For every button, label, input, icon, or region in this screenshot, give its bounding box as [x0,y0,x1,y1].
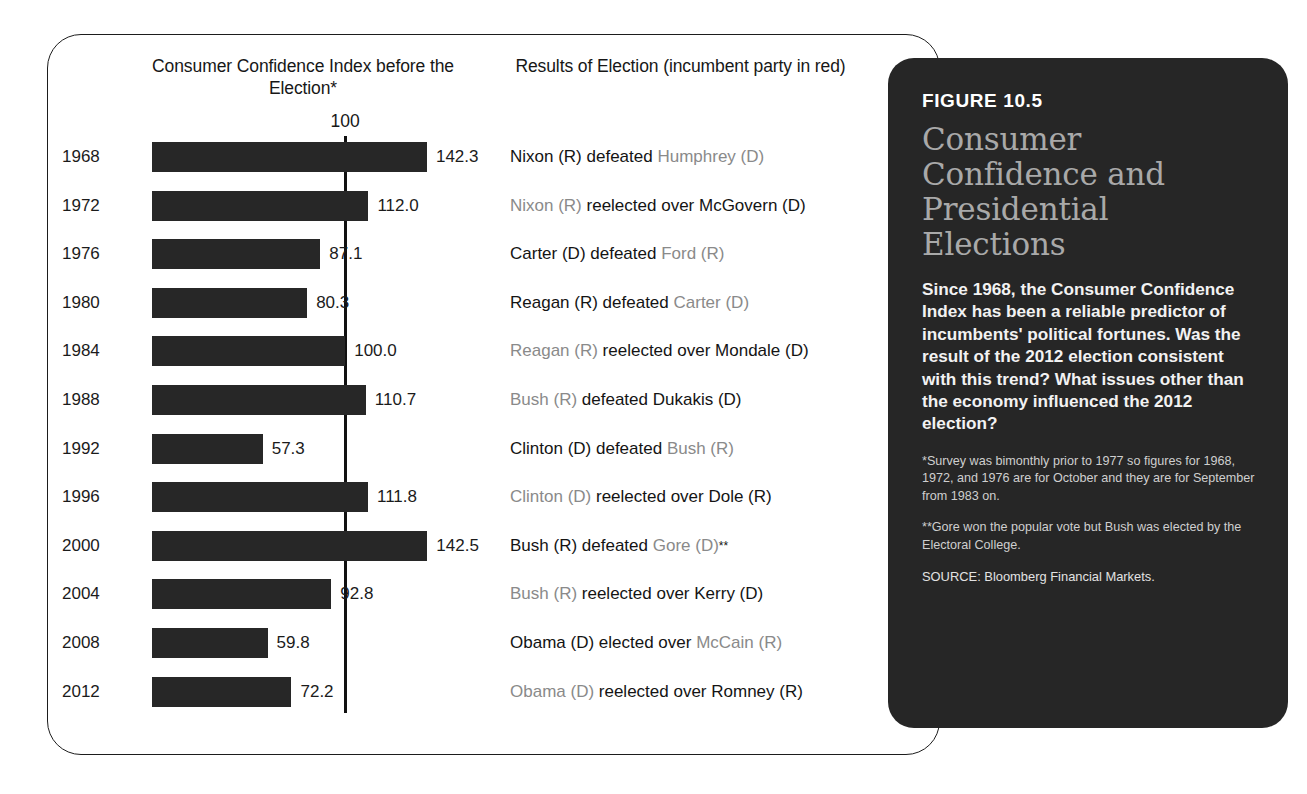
election-result-row: Nixon (R) reelected over McGovern (D) [510,183,940,229]
election-result-row: Reagan (R) defeated Carter (D) [510,280,940,326]
bar-value-label: 100.0 [354,341,397,361]
election-verb: reelected over [582,196,699,216]
election-loser: Kerry (D) [694,584,763,604]
bar [152,677,291,707]
election-winner: Bush (R) [510,536,577,556]
chart-row: 1968142.3 [48,134,508,180]
chart-row: 1984100.0 [48,328,508,374]
election-loser: Mondale (D) [715,341,809,361]
bar-value-label: 80.3 [316,293,349,313]
chart-row: 1988110.7 [48,377,508,423]
year-label: 2012 [62,682,144,702]
election-loser: Gore (D) [653,536,719,556]
bar-value-label: 110.7 [375,390,416,410]
chart-row: 198080.3 [48,280,508,326]
election-loser: McCain (R) [696,633,782,653]
chart-row: 1972112.0 [48,183,508,229]
footnote-marker: ** [719,539,728,553]
year-label: 1972 [62,196,144,216]
election-winner: Obama (D) [510,682,594,702]
election-result-row: Nixon (R) defeated Humphrey (D) [510,134,940,180]
bar-chart: 1968142.31972112.0197687.1198080.3198410… [48,35,508,754]
figure-note-1: *Survey was bimonthly prior to 1977 so f… [922,453,1258,507]
election-loser: Dole (R) [708,487,771,507]
election-winner: Carter (D) [510,244,586,264]
election-result-row: Bush (R) reelected over Kerry (D) [510,571,940,617]
election-verb: defeated [577,390,653,410]
year-label: 2000 [62,536,144,556]
election-winner: Bush (R) [510,584,577,604]
year-label: 1988 [62,390,144,410]
election-verb: reelected over [594,682,711,702]
election-winner: Clinton (D) [510,439,591,459]
election-winner: Bush (R) [510,390,577,410]
election-result-row: Bush (R) defeated Dukakis (D) [510,377,940,423]
chart-row: 200492.8 [48,571,508,617]
election-verb: reelected over [577,584,694,604]
election-loser: Carter (D) [674,293,750,313]
bar [152,579,331,609]
bar-value-label: 112.0 [377,196,418,216]
figure-title: Consumer Confidence and Presidential Ele… [922,122,1258,262]
bar [152,628,268,658]
election-verb: defeated [582,147,658,167]
election-result-row: Bush (R) defeated Gore (D)** [510,523,940,569]
bar-value-label: 59.8 [277,633,310,653]
election-result-row: Clinton (D) defeated Bush (R) [510,426,940,472]
year-label: 1980 [62,293,144,313]
chart-row: 199257.3 [48,426,508,472]
year-label: 1984 [62,341,144,361]
bar [152,191,368,221]
election-result-row: Reagan (R) reelected over Mondale (D) [510,328,940,374]
election-verb: defeated [577,536,653,556]
bar [152,288,307,318]
bar-value-label: 72.2 [300,682,333,702]
figure-note-2: **Gore won the popular vote but Bush was… [922,519,1258,555]
election-verb: defeated [586,244,662,264]
figure-panel: Consumer Confidence Index before the Ele… [47,34,940,755]
bar [152,336,345,366]
election-loser: Bush (R) [667,439,734,459]
year-label: 1996 [62,487,144,507]
year-label: 1976 [62,244,144,264]
election-verb: reelected over [591,487,708,507]
election-winner: Reagan (R) [510,293,598,313]
figure-number: FIGURE 10.5 [922,90,1258,112]
election-result-row: Obama (D) elected over McCain (R) [510,620,940,666]
election-winner: Nixon (R) [510,147,582,167]
election-winner: Nixon (R) [510,196,582,216]
election-result-row: Clinton (D) reelected over Dole (R) [510,474,940,520]
figure-caption-panel: FIGURE 10.5 Consumer Confidence and Pres… [888,58,1288,728]
bar [152,531,427,561]
election-verb: reelected over [598,341,715,361]
bar-value-label: 87.1 [329,244,362,264]
year-label: 1992 [62,439,144,459]
election-verb: elected over [594,633,696,653]
election-winner: Reagan (R) [510,341,598,361]
figure-source: SOURCE: Bloomberg Financial Markets. [922,568,1258,586]
bar [152,482,368,512]
year-label: 1968 [62,147,144,167]
chart-row: 197687.1 [48,231,508,277]
bar-value-label: 111.8 [377,487,417,507]
election-loser: Dukakis (D) [653,390,742,410]
chart-row: 200859.8 [48,620,508,666]
election-result-row: Obama (D) reelected over Romney (R) [510,669,940,715]
bar [152,385,366,415]
bar-value-label: 142.3 [436,147,479,167]
election-loser: McGovern (D) [699,196,806,216]
bar [152,434,263,464]
bar-value-label: 92.8 [340,584,373,604]
election-winner: Obama (D) [510,633,594,653]
chart-row: 1996111.8 [48,474,508,520]
bar-value-label: 57.3 [272,439,305,459]
election-loser: Humphrey (D) [657,147,764,167]
figure-description: Since 1968, the Consumer Confidence Inde… [922,278,1258,435]
election-winner: Clinton (D) [510,487,591,507]
election-loser: Romney (R) [711,682,803,702]
bar-value-label: 142.5 [436,536,479,556]
election-verb: defeated [591,439,667,459]
election-results-list: Nixon (R) defeated Humphrey (D)Nixon (R)… [510,35,940,754]
chart-row: 201272.2 [48,669,508,715]
year-label: 2004 [62,584,144,604]
